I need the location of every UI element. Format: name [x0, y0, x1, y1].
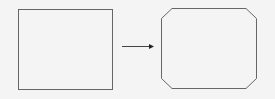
arrow-head-icon: [149, 44, 154, 49]
transformation-diagram: [0, 0, 275, 99]
target-chamfered-rectangle: [162, 9, 257, 89]
source-square: [19, 10, 113, 90]
arrow-connector: [122, 44, 154, 49]
